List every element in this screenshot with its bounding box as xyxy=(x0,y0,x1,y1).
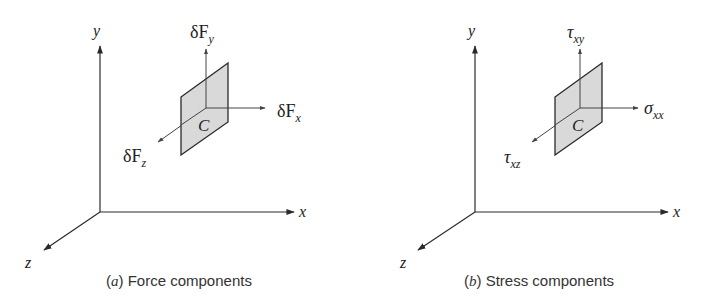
z-axis xyxy=(44,212,100,250)
delta-fx-label: δFx xyxy=(277,101,302,125)
element-label-c: C xyxy=(198,116,210,135)
stress-force-diagram: y x z C δFy δFx δFz (a) Force components… xyxy=(0,0,705,303)
element-label-c: C xyxy=(572,116,584,135)
panel-b: y x z C τxy σxx τxz (b) Stress component… xyxy=(399,22,680,289)
x-axis-label: x xyxy=(298,203,306,220)
axes-b: y x z xyxy=(399,22,680,271)
y-axis-label: y xyxy=(91,22,101,40)
z-axis-label: z xyxy=(399,254,407,271)
figure-canvas: y x z C δFy δFx δFz (a) Force components… xyxy=(0,0,705,303)
delta-fy-label: δFy xyxy=(190,22,215,46)
axes-a: y x z xyxy=(24,22,306,271)
sigma-xx-label: σxx xyxy=(644,98,664,122)
y-axis-label: y xyxy=(466,22,476,40)
element-a: C xyxy=(158,49,265,155)
panel-a: y x z C δFy δFx δFz (a) Force components xyxy=(24,22,306,289)
z-axis-label: z xyxy=(24,254,32,271)
tau-xz-label: τxz xyxy=(504,147,521,171)
tau-xy-label: τxy xyxy=(567,22,585,46)
x-axis-label: x xyxy=(672,203,680,220)
element-b: C xyxy=(532,49,638,155)
z-axis xyxy=(418,212,475,250)
delta-fz-label: δFz xyxy=(123,146,147,170)
caption-b: (b) Stress components xyxy=(464,272,614,289)
caption-a: (a) Force components xyxy=(106,272,252,289)
